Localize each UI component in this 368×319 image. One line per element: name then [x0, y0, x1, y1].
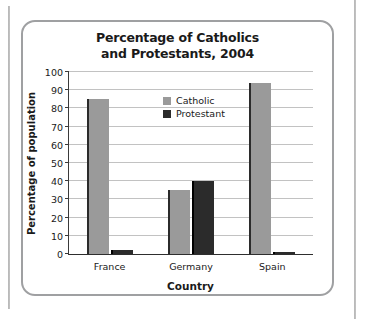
legend-swatch-catholic-icon [163, 97, 171, 105]
bar-protestant-spain[interactable] [273, 252, 295, 254]
x-tick-label-spain: Spain [232, 261, 313, 272]
x-axis-title: Country [68, 280, 313, 292]
bar-catholic-france[interactable] [87, 99, 109, 254]
chart-title: Percentage of Catholics and Protestants,… [23, 30, 332, 61]
chart-legend: Catholic Protestant [163, 94, 225, 120]
legend-item-catholic: Catholic [163, 94, 225, 107]
y-axis-title-text: Percentage of population [27, 92, 38, 235]
chart-title-line-2: and Protestants, 2004 [23, 46, 332, 62]
chart-figure-frame: Percentage of Catholics and Protestants,… [21, 20, 334, 296]
y-tick-label: 10 [51, 230, 63, 241]
y-tick-label: 30 [51, 194, 63, 205]
y-tick-label: 0 [57, 249, 63, 260]
legend-item-protestant: Protestant [163, 107, 225, 120]
page-margin-rule-right [354, 0, 356, 319]
x-tick-label-germany: Germany [150, 261, 231, 272]
bar-protestant-germany[interactable] [192, 181, 214, 254]
bar-catholic-germany[interactable] [168, 190, 190, 254]
bar-group: France [69, 72, 150, 254]
legend-label-protestant: Protestant [176, 108, 225, 119]
bar-group: Spain [232, 72, 313, 254]
bar-catholic-spain[interactable] [249, 83, 271, 254]
y-tick-label: 40 [51, 176, 63, 187]
y-tick-label: 60 [51, 139, 63, 150]
y-tick-label: 80 [51, 103, 63, 114]
y-axis-title: Percentage of population [25, 72, 39, 255]
legend-label-catholic: Catholic [176, 95, 215, 106]
y-tick-label: 50 [51, 158, 63, 169]
y-tick-label: 100 [45, 67, 63, 78]
x-tick-label-france: France [69, 261, 150, 272]
chart-title-line-1: Percentage of Catholics [23, 30, 332, 46]
bar-protestant-france[interactable] [111, 250, 133, 254]
legend-swatch-protestant-icon [163, 110, 171, 118]
y-tick-label: 90 [51, 85, 63, 96]
y-tick-label: 70 [51, 121, 63, 132]
y-tick-label: 20 [51, 212, 63, 223]
page-margin-rule-left [8, 6, 10, 309]
